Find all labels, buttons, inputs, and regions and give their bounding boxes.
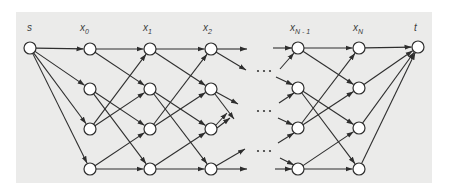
ellipsis-dot	[257, 150, 259, 152]
node-xNm1_2	[292, 122, 304, 134]
node-x1_3	[144, 163, 156, 175]
node-xN_2	[353, 122, 365, 134]
label-s: s	[27, 22, 32, 33]
ellipsis-dot	[263, 150, 265, 152]
ellipsis-dot	[269, 110, 271, 112]
ellipsis-dot	[257, 110, 259, 112]
node-xN_1	[353, 82, 365, 94]
node-x2_0	[205, 43, 217, 55]
node-x1_1	[144, 83, 156, 95]
diagram-canvas: sx0x1x2xN - 1xNt	[0, 0, 449, 192]
node-x0_1	[84, 83, 96, 95]
node-xNm1_0	[292, 42, 304, 54]
node-x2_2	[205, 123, 217, 135]
node-xNm1_3	[292, 163, 304, 175]
node-xN_3	[353, 163, 365, 175]
node-x0_0	[84, 43, 96, 55]
node-xN_0	[353, 42, 365, 54]
node-x1_2	[144, 123, 156, 135]
node-x2_1	[205, 83, 217, 95]
ellipsis-dot	[269, 150, 271, 152]
ellipsis-dot	[263, 110, 265, 112]
ellipsis-dot	[257, 70, 259, 72]
diagram-panel	[16, 12, 432, 183]
ellipsis-dot	[263, 70, 265, 72]
ellipsis-dot	[269, 70, 271, 72]
node-x1_0	[144, 43, 156, 55]
node-xNm1_1	[292, 82, 304, 94]
node-x2_3	[205, 163, 217, 175]
node-t	[412, 41, 424, 53]
node-s	[24, 42, 36, 54]
node-x0_3	[84, 163, 96, 175]
node-x0_2	[84, 123, 96, 135]
